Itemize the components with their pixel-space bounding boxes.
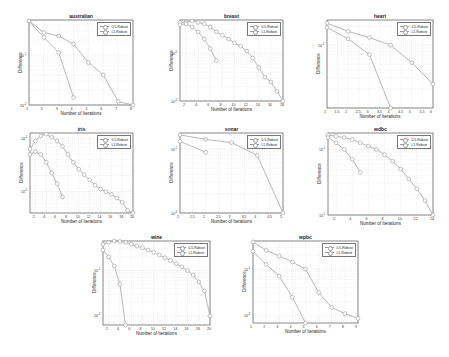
legend-label: L1-Robust (188, 251, 204, 255)
data-marker (72, 96, 76, 100)
x-tick-label: 6 (316, 325, 318, 329)
subplot-title: wine (103, 234, 210, 240)
data-marker (269, 80, 273, 84)
x-tick-label: 18 (196, 327, 200, 331)
data-marker (191, 273, 195, 277)
data-marker (66, 152, 70, 156)
x-tick-label: 4 (71, 107, 73, 111)
data-marker (141, 246, 145, 250)
x-tick-label: 5 (303, 325, 305, 329)
subplot-title: iris (30, 126, 133, 132)
legend-label: 0.5-Robust (188, 246, 205, 250)
legend-label: 0.5-Robust (411, 25, 428, 29)
data-marker (208, 314, 212, 318)
x-tick-label: 6 (365, 217, 367, 221)
x-tick-label: 3.5 (377, 110, 382, 114)
x-tick-label: 2 (32, 215, 34, 219)
y-axis-label: Difference (169, 158, 174, 188)
data-marker (44, 160, 48, 164)
x-tick-label: 5.5 (419, 110, 424, 114)
data-marker (101, 73, 105, 77)
x-tick-label: 14 (430, 217, 434, 221)
data-marker (214, 59, 218, 63)
data-marker (118, 282, 122, 286)
y-tick-label: 10-1 (21, 136, 27, 141)
x-tick-label: 6 (100, 107, 102, 111)
data-marker (350, 138, 354, 142)
data-marker (72, 42, 76, 46)
x-tick-label: 6 (430, 110, 432, 114)
legend-label: L1-Robust (111, 30, 127, 34)
x-tick-label: 16 (268, 103, 272, 107)
data-marker (87, 61, 91, 65)
data-marker (334, 134, 338, 138)
circle-marker-icon (100, 29, 109, 34)
legend-label: 0.5-Robust (261, 25, 278, 29)
y-tick-label: 10-2 (319, 213, 325, 218)
data-marker (34, 139, 38, 143)
data-marker (28, 152, 32, 156)
data-marker (163, 256, 167, 260)
data-marker (251, 249, 255, 253)
x-tick-label: 2.5 (356, 110, 361, 114)
x-tick-label: 9 (355, 325, 357, 329)
x-tick-label: 14 (173, 327, 177, 331)
x-axis-label: Number of Iterations (253, 329, 358, 334)
x-tick-label: 6 (207, 103, 209, 107)
data-marker (101, 248, 105, 252)
data-marker (55, 139, 59, 143)
x-tick-label: 3 (56, 107, 58, 111)
data-marker (325, 26, 329, 30)
data-marker (415, 187, 419, 191)
x-tick-label: 6 (54, 215, 56, 219)
data-marker (178, 133, 182, 137)
data-marker (50, 135, 54, 139)
data-marker (277, 254, 281, 258)
x-tick-label: 1 (324, 110, 326, 114)
circle-marker-icon (400, 142, 409, 147)
legend-entry: L1-Robust (400, 29, 428, 34)
legend-entry: L1-Robust (250, 142, 278, 147)
subplot-title: breast (180, 13, 283, 19)
x-tick-label: 6 (128, 327, 130, 331)
legend: 0.5-RobustL1-Robust (247, 22, 281, 36)
data-marker (202, 37, 206, 41)
y-tick-label: 10-1 (318, 43, 324, 48)
data-marker (204, 138, 208, 142)
x-axis-label: Number of Iterations (180, 219, 283, 224)
data-marker (326, 136, 330, 140)
data-marker (157, 253, 161, 257)
circle-marker-icon (250, 142, 259, 147)
x-tick-label: 4.5 (267, 215, 272, 219)
subplot-title: australian (29, 13, 133, 19)
series-line-l1-robust (180, 141, 206, 152)
data-marker (42, 31, 46, 35)
data-marker (169, 259, 173, 263)
legend-entry: L1-Robust (400, 142, 428, 147)
data-marker (146, 248, 150, 252)
y-axis-label: Difference (92, 268, 97, 298)
data-marker (227, 37, 231, 41)
data-marker (77, 167, 81, 171)
data-marker (358, 170, 362, 174)
y-axis-label: Difference (19, 158, 24, 188)
circle-marker-icon (100, 142, 109, 147)
x-tick-label: 8 (342, 325, 344, 329)
data-marker (399, 167, 403, 171)
x-tick-label: 2 (345, 110, 347, 114)
x-axis-label: Number of Iterations (327, 114, 433, 119)
data-marker (180, 265, 184, 269)
data-marker (178, 139, 182, 143)
data-marker (196, 30, 200, 34)
data-marker (230, 141, 234, 145)
data-marker (178, 23, 182, 27)
data-marker (350, 157, 354, 161)
legend-label: L1-Robust (111, 143, 127, 147)
subplot-heart: 11.522.533.544.555.5610-1heartNumber of … (327, 20, 433, 108)
data-marker (112, 264, 116, 268)
x-tick-label: 4 (388, 110, 390, 114)
legend-label: L1-Robust (411, 30, 427, 34)
x-tick-label: 1 (250, 325, 252, 329)
data-marker (251, 56, 255, 60)
legend-label: 0.5-Robust (111, 25, 128, 29)
